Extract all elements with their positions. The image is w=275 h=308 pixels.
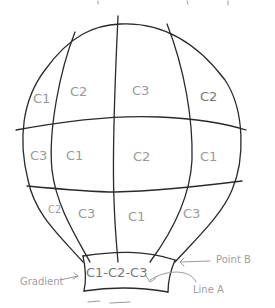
cell-label: C2 — [48, 204, 61, 215]
cell-label: C2 — [200, 89, 217, 104]
cell-label: C1 — [66, 148, 83, 163]
band-label: C1-C2-C3 — [86, 265, 147, 280]
cell-label: C3 — [183, 206, 200, 221]
line-a-curve — [150, 272, 196, 282]
balloon-sketch: C1 C2 C3 C2 C3 C1 C2 C1 C2 C3 C1 C3 C1-C… — [0, 0, 275, 308]
cropped-text-fragments-bottom — [88, 301, 130, 303]
cell-label: C2 — [70, 84, 87, 99]
cell-label: C1 — [200, 149, 217, 164]
cell-label: C2 — [133, 149, 150, 164]
cell-label: C1 — [128, 209, 145, 224]
middle-row-labels: C3 C1 C2 C1 — [30, 148, 217, 164]
cell-label: C3 — [30, 148, 47, 163]
cell-label: C3 — [78, 206, 95, 221]
point-b-arrow — [180, 261, 210, 262]
lower-row-labels: C2 C3 C1 C3 — [48, 204, 200, 224]
point-b-annotation: Point B — [216, 254, 251, 265]
cell-label: C1 — [33, 91, 50, 106]
cropped-text-fragments — [98, 1, 228, 5]
cell-label: C3 — [132, 83, 149, 98]
basket-band: C1-C2-C3 — [83, 252, 175, 292]
gradient-annotation: Gradient — [20, 276, 64, 287]
line-a-annotation: Line A — [193, 284, 224, 295]
top-row-labels: C1 C2 C3 C2 — [33, 83, 217, 106]
balloon-envelope — [23, 24, 241, 262]
gore-lines — [51, 16, 192, 262]
